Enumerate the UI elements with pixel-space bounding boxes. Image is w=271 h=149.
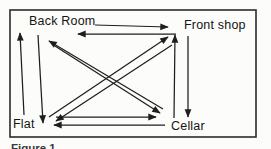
node-back-room: Back Room bbox=[29, 15, 95, 28]
arrow-flat-to-back-room bbox=[20, 33, 24, 115]
node-cellar: Cellar bbox=[171, 120, 205, 133]
figure-caption: Figure 1 bbox=[11, 142, 56, 149]
edges-layer bbox=[20, 25, 188, 125]
arrow-back-room-to-front-shop bbox=[95, 25, 168, 27]
node-flat: Flat bbox=[13, 118, 35, 131]
scanned-figure-page: Back Room Front shop Flat Cellar Figure … bbox=[0, 0, 271, 149]
node-front-shop: Front shop bbox=[184, 19, 246, 32]
arrow-cellar-to-front-shop bbox=[174, 35, 175, 118]
arrow-flat-to-front-shop bbox=[49, 37, 168, 117]
arrow-back-room-to-flat bbox=[38, 35, 43, 123]
